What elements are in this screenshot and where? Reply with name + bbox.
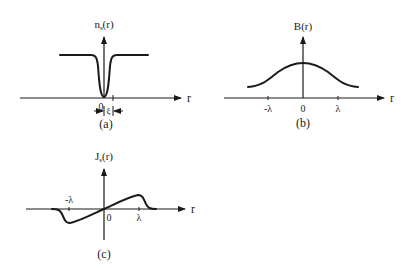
panel-c: Js(r) r -λ 0 λ (c) — [26, 150, 195, 261]
xi-label: ξ — [106, 106, 110, 116]
y-axis-label: ns(r) — [94, 18, 114, 32]
tick-label: 0 — [301, 103, 306, 114]
panel-b: B(r) r -λ 0 λ (b) — [224, 20, 394, 130]
figure: ns(r) r 0 ξ (a) B(r) r -λ 0 λ (b) Js(r) … — [0, 0, 414, 268]
x-axis-label: r — [390, 91, 394, 105]
tick-label: -λ — [65, 194, 73, 205]
caption-a: (a) — [99, 117, 112, 131]
y-axis-label: Js(r) — [95, 150, 113, 164]
tick-label: 0 — [107, 212, 112, 223]
y-axis-label: B(r) — [294, 20, 313, 33]
x-axis-label: r — [191, 202, 195, 216]
tick-label: λ — [137, 212, 142, 223]
origin-label: 0 — [99, 101, 104, 112]
caption-c: (c) — [97, 247, 110, 261]
tick-label: -λ — [264, 103, 272, 114]
panel-a: ns(r) r 0 ξ (a) — [20, 18, 191, 131]
caption-b: (b) — [296, 116, 310, 130]
x-axis-label: r — [187, 91, 191, 105]
tick-label: λ — [336, 103, 341, 114]
